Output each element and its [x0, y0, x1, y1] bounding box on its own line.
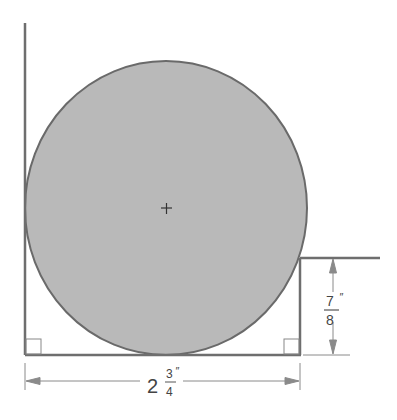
- width-dimension: [25, 363, 300, 390]
- right-angle-mark-right: [284, 339, 299, 354]
- step-height-unit: ″: [339, 291, 344, 303]
- diagram-canvas: 2 3 4 ″ 7 8 ″: [0, 0, 397, 420]
- width-whole: 2: [147, 375, 158, 397]
- step-height-numerator: 7: [326, 293, 334, 309]
- width-denominator: 4: [166, 385, 173, 399]
- step-height-denominator: 8: [326, 312, 334, 328]
- right-angle-mark-left: [26, 339, 41, 354]
- width-numerator: 3: [166, 367, 173, 381]
- width-unit: ″: [175, 365, 180, 377]
